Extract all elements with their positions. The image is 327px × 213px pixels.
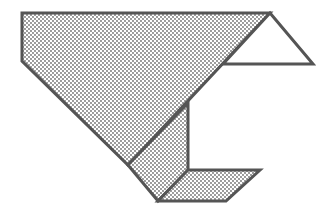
folded-shape-diagram	[0, 0, 327, 213]
main-shaded-pentagon	[22, 13, 270, 165]
